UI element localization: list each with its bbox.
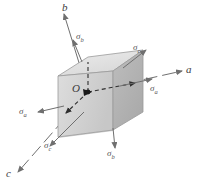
stress-label-sigma-a-right: σa bbox=[150, 83, 158, 95]
sigma-subscript: b bbox=[111, 153, 114, 160]
stress-label-sigma-a-left: σa bbox=[19, 106, 27, 118]
stress-label-sigma-c-upper-right: σc bbox=[133, 42, 140, 54]
stress-label-sigma-c-lower-left: σc bbox=[44, 140, 51, 152]
stress-element-figure: b a c O σb σc σa σa σc σb bbox=[0, 0, 203, 184]
sigma-subscript: a bbox=[154, 88, 157, 95]
sigma-subscript: c bbox=[137, 47, 140, 54]
stress-arrow-sigma-b-down bbox=[113, 128, 115, 148]
stress-label-sigma-b-up: σb bbox=[76, 31, 84, 43]
diagram-canvas bbox=[0, 0, 203, 184]
axis-label-c: c bbox=[6, 167, 11, 179]
sigma-subscript: a bbox=[23, 111, 26, 118]
sigma-subscript: c bbox=[48, 145, 51, 152]
sigma-subscript: b bbox=[80, 36, 83, 43]
stress-label-sigma-b-down: σb bbox=[107, 148, 115, 160]
axis-label-a: a bbox=[186, 63, 192, 75]
axis-label-b: b bbox=[62, 1, 68, 13]
origin-label: O bbox=[72, 82, 80, 94]
